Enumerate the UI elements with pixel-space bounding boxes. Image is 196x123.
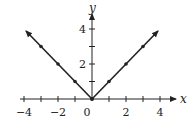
x-tick-label: 0 [84, 106, 91, 119]
x-tick-label: 4 [157, 106, 164, 119]
x-tick-label: −4 [16, 106, 32, 119]
x-tick-label: 2 [123, 106, 130, 119]
y-tick-label: 4 [79, 23, 86, 36]
x-tick-label: −2 [50, 106, 66, 119]
x-axis-label: x [180, 92, 187, 106]
y-axis-label: y [88, 1, 96, 15]
y-tick-label: 2 [79, 58, 86, 71]
abs-value-chart: −4 −2 0 2 4 2 4 x y [0, 0, 196, 123]
